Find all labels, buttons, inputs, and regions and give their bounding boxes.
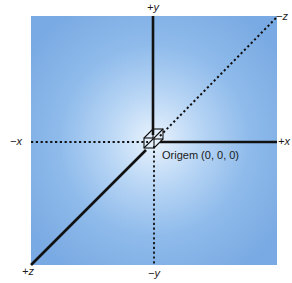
neg-z-axis (160, 17, 277, 136)
coordinate-system-diagram: +y −y +x −x +z −z Origem (0, 0, 0) (0, 0, 292, 283)
origin-cube-icon (144, 129, 163, 148)
pos-z-label: +z (22, 266, 34, 277)
neg-y-label: −y (148, 268, 160, 279)
pos-z-axis (31, 150, 146, 265)
pos-y-label: +y (147, 2, 159, 13)
pos-x-label: +x (278, 136, 290, 147)
neg-x-label: −x (10, 136, 22, 147)
neg-z-label: −z (276, 11, 288, 22)
origin-label: Origem (0, 0, 0) (162, 150, 239, 161)
axes-drawing (0, 0, 292, 283)
